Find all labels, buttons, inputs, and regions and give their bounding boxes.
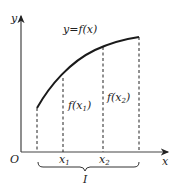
curve-label: y=f(x)	[62, 23, 97, 36]
y-axis-label: y	[10, 12, 18, 25]
x2-label: x2	[99, 153, 110, 167]
x1-label: x1	[59, 153, 70, 167]
x-axis-label: x	[162, 155, 169, 168]
f-x1-label: f(x1)	[67, 99, 91, 113]
f-x2-label: f(x2)	[106, 91, 130, 105]
interval-brace	[38, 162, 139, 171]
interval-label: I	[82, 173, 88, 185]
origin-label: O	[10, 153, 19, 166]
function-diagram: y x O y=f(x) x1 x2 f(x1) f(x2) I	[0, 0, 180, 185]
